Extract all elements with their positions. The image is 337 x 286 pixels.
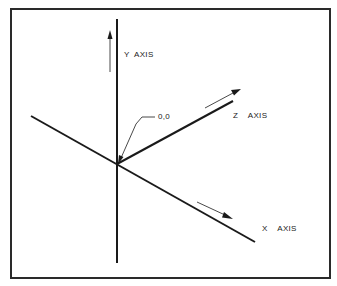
origin-label: 0,0	[158, 112, 170, 121]
z-axis-line	[117, 101, 233, 164]
z-direction-arrow-icon	[205, 89, 241, 108]
axes-diagram	[0, 0, 337, 286]
x-axis-label: X AXIS	[262, 224, 297, 233]
x-axis-line	[31, 116, 255, 242]
x-direction-arrow-icon	[197, 202, 233, 219]
z-axis-label: Z AXIS	[233, 111, 267, 120]
y-direction-arrow-icon	[108, 30, 113, 72]
y-axis-label: Y AXIS	[124, 50, 154, 59]
origin-leader-icon	[118, 117, 155, 164]
